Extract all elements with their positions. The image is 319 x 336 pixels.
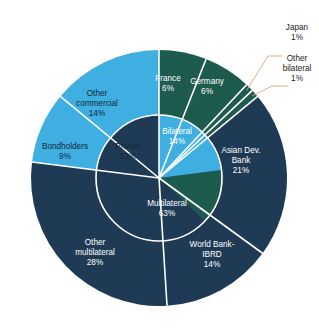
callout-other-bilateral-line1: Other [287,54,308,63]
callout-japan-name: Japan [286,23,309,32]
leader-line-japan [247,56,283,90]
pie-chart-svg: Other commercial 14% Bondholders 9% Priv… [0,0,319,336]
callout-japan-pct: 1% [291,33,303,42]
callout-labels: Japan 1% Other bilateral 1% [283,23,312,83]
nested-pie-chart: Other commercial 14% Bondholders 9% Priv… [0,0,319,336]
callout-other-bilateral-line2: bilateral [283,64,312,73]
callout-leader-lines [247,56,288,96]
leader-line-other-bilateral [252,86,288,96]
callout-other-bilateral-pct: 1% [291,74,303,83]
